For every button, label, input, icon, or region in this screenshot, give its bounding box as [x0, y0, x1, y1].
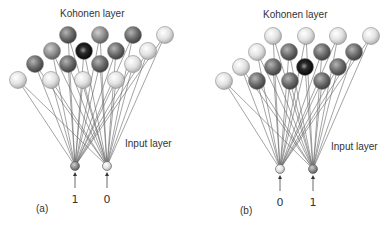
- kohonen-neuron: [314, 73, 331, 90]
- kohonen-neuron: [60, 56, 77, 73]
- kohonen-neuron: [363, 28, 380, 45]
- kohonen-neuron: [265, 59, 282, 76]
- panel-caption: (b): [240, 205, 252, 216]
- winner-neuron: [297, 59, 314, 76]
- kohonen-neuron: [216, 73, 233, 90]
- kohonen-layer-a: [10, 27, 174, 89]
- kohonen-layer-label: Kohonen layer: [60, 8, 125, 19]
- kohonen-neuron: [281, 44, 298, 61]
- kohonen-neuron: [75, 72, 92, 89]
- kohonen-neuron: [249, 73, 266, 90]
- kohonen-neuron: [10, 72, 27, 89]
- kohonen-neuron: [330, 59, 347, 76]
- kohonen-neuron: [233, 59, 250, 76]
- input-value: 1: [310, 196, 317, 209]
- arrow-head-icon: [73, 172, 77, 176]
- kohonen-neuron: [43, 72, 60, 89]
- input-layer-label: Input layer: [125, 138, 172, 149]
- kohonen-diagram: 1001 Kohonen layerInput layer(a)Kohonen …: [0, 0, 391, 228]
- kohonen-neuron: [44, 43, 61, 60]
- input-neuron: [309, 165, 318, 174]
- kohonen-neuron: [140, 43, 157, 60]
- input-neuron: [103, 162, 112, 171]
- kohonen-neuron: [298, 28, 315, 45]
- kohonen-neuron: [125, 27, 142, 44]
- winner-neuron: [76, 43, 93, 60]
- kohonen-neuron: [27, 56, 44, 73]
- kohonen-neuron: [108, 43, 125, 60]
- kohonen-neuron: [92, 27, 109, 44]
- arrow-head-icon: [311, 175, 315, 179]
- input-neuron: [71, 162, 80, 171]
- kohonen-neuron: [125, 56, 142, 73]
- input-value: 1: [72, 193, 79, 206]
- kohonen-neuron: [330, 28, 347, 45]
- kohonen-layer-label: Kohonen layer: [263, 9, 328, 20]
- connection-line: [51, 80, 75, 166]
- connection-line: [18, 80, 107, 166]
- input-layer-a: 10: [71, 162, 112, 207]
- input-neuron: [276, 165, 285, 174]
- kohonen-neuron: [92, 56, 109, 73]
- kohonen-neuron: [60, 27, 77, 44]
- kohonen-neuron: [314, 44, 331, 61]
- kohonen-neuron: [265, 28, 282, 45]
- arrow-head-icon: [278, 175, 282, 179]
- input-nodes: 1001: [71, 162, 318, 210]
- panel-caption: (a): [36, 203, 48, 214]
- input-layer-label: Input layer: [331, 141, 378, 152]
- input-value: 0: [277, 196, 284, 209]
- input-layer-b: 01: [276, 165, 318, 210]
- kohonen-layer-b: [216, 28, 380, 90]
- kohonen-neuron: [157, 27, 174, 44]
- arrow-head-icon: [105, 172, 109, 176]
- kohonen-neuron: [249, 44, 266, 61]
- kohonen-nodes: [10, 27, 380, 90]
- kohonen-neuron: [282, 73, 299, 90]
- input-value: 0: [104, 193, 111, 206]
- kohonen-neuron: [108, 72, 125, 89]
- kohonen-neuron: [346, 44, 363, 61]
